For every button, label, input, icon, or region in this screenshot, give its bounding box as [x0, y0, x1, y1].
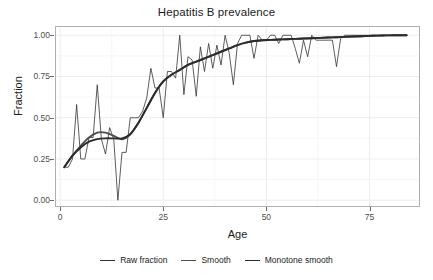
plot-area — [56, 27, 419, 206]
legend-line-icon — [245, 260, 260, 261]
y-tick-label: 0.00 — [20, 195, 50, 205]
plot-panel — [55, 26, 420, 207]
y-tick-label: 0.25 — [20, 154, 50, 164]
x-tick-label: 75 — [353, 212, 387, 222]
x-tick-label: 50 — [249, 212, 283, 222]
chart-container: Hepatitis B prevalence Fraction 0.000.25… — [0, 0, 433, 280]
legend-label: Monotone smooth — [265, 255, 333, 265]
legend-item[interactable]: Raw fraction — [100, 255, 167, 265]
y-tick-label: 0.75 — [20, 71, 50, 81]
legend-item[interactable]: Smooth — [181, 255, 230, 265]
legend-label: Raw fraction — [120, 255, 167, 265]
y-tickmark — [50, 35, 54, 36]
y-tick-label: 0.50 — [20, 113, 50, 123]
y-tickmark — [50, 200, 54, 201]
x-tick-label: 25 — [146, 212, 180, 222]
y-tickmark — [50, 159, 54, 160]
y-axis-tick-labels: 0.000.250.500.751.00 — [16, 0, 50, 280]
x-tickmark — [163, 207, 164, 211]
legend-line-icon — [181, 260, 196, 261]
y-tickmark — [50, 76, 54, 77]
series-line — [64, 35, 406, 167]
series-line — [64, 35, 406, 167]
chart-title: Hepatitis B prevalence — [0, 6, 433, 18]
x-tickmark — [370, 207, 371, 211]
legend-item[interactable]: Monotone smooth — [245, 255, 333, 265]
x-tickmark — [266, 207, 267, 211]
x-axis-title: Age — [55, 228, 420, 240]
chart-legend: Raw fractionSmoothMonotone smooth — [0, 255, 433, 265]
y-tickmark — [50, 118, 54, 119]
x-tick-label: 0 — [43, 212, 77, 222]
legend-line-icon — [100, 260, 115, 261]
x-axis-tick-labels: 0255075 — [0, 212, 433, 226]
legend-label: Smooth — [201, 255, 230, 265]
x-tickmark — [60, 207, 61, 211]
grid-lines — [56, 27, 419, 206]
y-tick-label: 1.00 — [20, 30, 50, 40]
